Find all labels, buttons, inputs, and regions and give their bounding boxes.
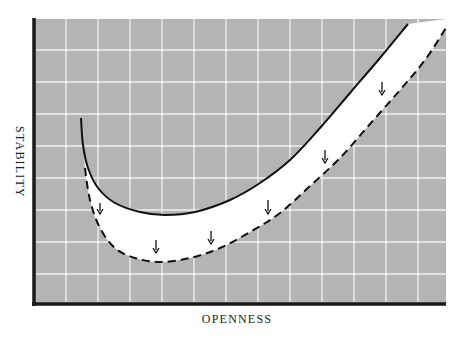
y-axis-label: STABILITY (13, 126, 27, 198)
x-axis-label: OPENNESS (202, 312, 272, 326)
chart: OPENNESS STABILITY (0, 0, 465, 337)
